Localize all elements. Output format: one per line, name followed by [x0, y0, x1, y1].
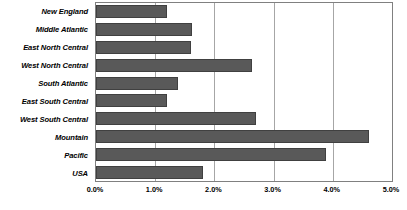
category-axis: New EnglandMiddle AtlanticEast North Cen…: [0, 2, 92, 182]
category-label: East South Central: [0, 92, 92, 110]
bar[interactable]: [96, 41, 191, 54]
bar-row: [96, 56, 392, 74]
bar[interactable]: [96, 23, 192, 36]
x-tick-label: 0.0%: [87, 185, 104, 194]
x-tick-label: 2.0%: [205, 185, 222, 194]
bar[interactable]: [96, 148, 326, 161]
category-label: New England: [0, 2, 92, 20]
bar-row: [96, 39, 392, 57]
bar-row: [96, 3, 392, 21]
bar-row: [96, 74, 392, 92]
value-axis: 0.0%1.0%2.0%3.0%4.0%5.0%: [95, 185, 393, 201]
x-tick-label: 3.0%: [264, 185, 281, 194]
bar-row: [96, 128, 392, 146]
bar-row: [96, 21, 392, 39]
bar-row: [96, 92, 392, 110]
bar-row: [96, 110, 392, 128]
gridline: [392, 3, 393, 181]
category-label: East North Central: [0, 38, 92, 56]
bar[interactable]: [96, 59, 252, 72]
bar[interactable]: [96, 166, 203, 179]
bar[interactable]: [96, 112, 256, 125]
category-label: USA: [0, 164, 92, 182]
plot-area: [95, 2, 393, 182]
category-label: Mountain: [0, 128, 92, 146]
bar-row: [96, 145, 392, 163]
bar-chart: New EnglandMiddle AtlanticEast North Cen…: [0, 0, 407, 210]
x-tick-label: 5.0%: [383, 185, 400, 194]
bar-row: [96, 163, 392, 181]
category-label: West North Central: [0, 56, 92, 74]
x-tick-label: 1.0%: [146, 185, 163, 194]
category-label: Pacific: [0, 146, 92, 164]
bar[interactable]: [96, 94, 167, 107]
bar[interactable]: [96, 130, 369, 143]
bar[interactable]: [96, 5, 167, 18]
x-tick-label: 4.0%: [323, 185, 340, 194]
category-label: West South Central: [0, 110, 92, 128]
category-label: Middle Atlantic: [0, 20, 92, 38]
bar-series: [96, 3, 392, 181]
bar[interactable]: [96, 77, 178, 90]
category-label: South Atlantic: [0, 74, 92, 92]
